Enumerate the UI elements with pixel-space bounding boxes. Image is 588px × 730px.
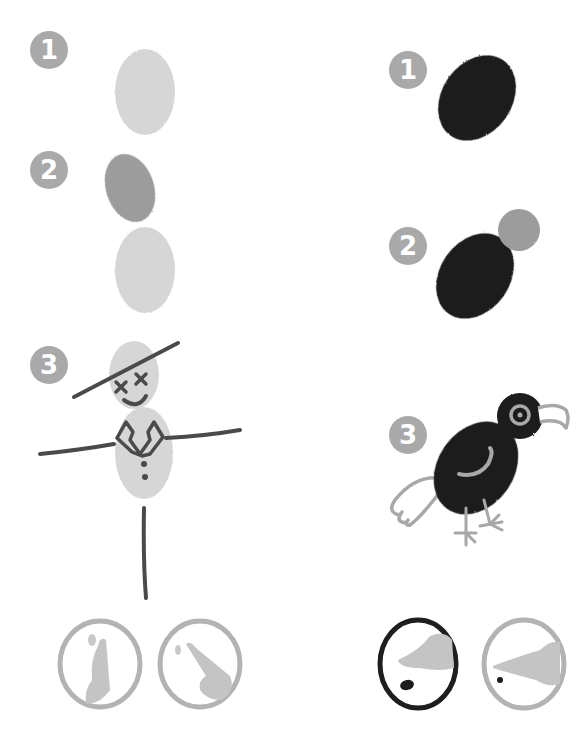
craft-instructions-page: 1 2 3 1 2 3	[0, 0, 588, 730]
scarecrow-drawing	[40, 341, 240, 598]
side-finger-print-technique-icon	[380, 620, 456, 708]
thumb-print-technique-icon	[60, 621, 140, 707]
left-step1-thumbprint	[115, 49, 175, 135]
left-step2-prints	[96, 147, 175, 313]
fingertip-print-technique-icon	[160, 621, 240, 707]
illustration-canvas	[0, 0, 588, 730]
right-step1-print	[422, 40, 532, 156]
fingertip-dot-print-technique-icon	[484, 620, 564, 708]
crow-drawing	[392, 393, 568, 545]
right-step2-prints	[420, 209, 540, 334]
